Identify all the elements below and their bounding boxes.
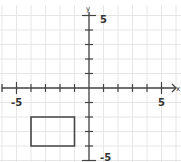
x-tick-label-5: 5	[158, 97, 165, 108]
grid-lines	[0, 5, 181, 162]
x-tick-label-neg5: -5	[11, 97, 22, 108]
y-tick-label-neg5: -5	[100, 152, 111, 162]
y-axis-label: y	[86, 5, 90, 13]
coordinate-plane: y x -5 5 5 -5	[0, 0, 181, 162]
y-tick-label-5: 5	[100, 14, 107, 25]
axes	[2, 12, 176, 160]
x-axis-label: x	[176, 85, 180, 93]
